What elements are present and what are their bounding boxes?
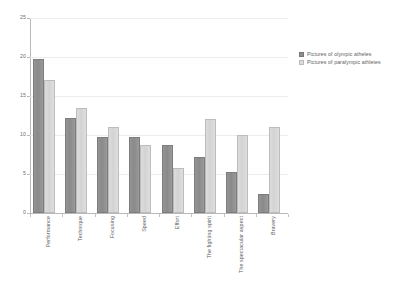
bar[interactable]	[76, 108, 87, 213]
bar[interactable]	[44, 80, 55, 213]
x-axis-category-label: Technique	[78, 216, 83, 241]
x-axis-category-label: Bravery	[271, 216, 276, 235]
legend-item-olympic[interactable]: Pictures of olympic atheles	[299, 52, 414, 57]
chart-legend: Pictures of olympic atheles Pictures of …	[299, 52, 414, 67]
x-axis-tick-mark	[30, 214, 31, 217]
x-axis-tick-mark	[191, 214, 192, 217]
y-axis-tick-label: 10	[4, 132, 26, 137]
x-axis-category-label: The fighting spirit	[207, 216, 212, 258]
y-axis-tick-mark	[27, 18, 30, 19]
x-axis-category-label: Effort	[175, 216, 180, 229]
x-axis-category-label: Focusing	[110, 216, 115, 238]
bar[interactable]	[162, 145, 173, 213]
gridline	[30, 18, 288, 19]
bar[interactable]	[129, 137, 140, 213]
legend-item-paralympic[interactable]: Pictures of paralympic athletes	[299, 60, 414, 65]
x-axis-category-label: Performance	[46, 216, 51, 247]
y-axis-tick-mark	[27, 174, 30, 175]
bar[interactable]	[65, 118, 76, 213]
x-axis-tick-mark	[288, 214, 289, 217]
bar-chart: 0510152025 PerformanceTechniqueFocusingS…	[0, 0, 418, 304]
bar[interactable]	[226, 172, 237, 213]
x-axis-tick-mark	[256, 214, 257, 217]
y-axis-tick-mark	[27, 57, 30, 58]
y-axis-tick-label: 25	[4, 15, 26, 20]
bar[interactable]	[33, 59, 44, 213]
legend-label-paralympic: Pictures of paralympic athletes	[307, 60, 381, 65]
legend-label-olympic: Pictures of olympic atheles	[307, 52, 371, 57]
bar[interactable]	[108, 127, 119, 213]
y-axis-tick-label: 5	[4, 171, 26, 176]
legend-swatch-olympic-icon	[299, 52, 304, 57]
gridline	[30, 57, 288, 58]
bar[interactable]	[173, 168, 184, 213]
bar[interactable]	[269, 127, 280, 213]
plot-area	[30, 18, 288, 213]
legend-swatch-paralympic-icon	[299, 60, 304, 65]
bar[interactable]	[237, 135, 248, 213]
x-axis-tick-mark	[62, 214, 63, 217]
y-axis-tick-mark	[27, 96, 30, 97]
x-axis-category-label: The spectacular aspect	[239, 216, 244, 273]
x-axis-tick-mark	[224, 214, 225, 217]
bar[interactable]	[258, 194, 269, 214]
x-axis-tick-mark	[159, 214, 160, 217]
bar[interactable]	[194, 157, 205, 213]
bar[interactable]	[140, 145, 151, 213]
y-axis-tick-label: 20	[4, 54, 26, 59]
y-axis-tick-label: 15	[4, 93, 26, 98]
bar[interactable]	[205, 119, 216, 213]
bar[interactable]	[97, 137, 108, 213]
x-axis-tick-mark	[127, 214, 128, 217]
x-axis-tick-mark	[95, 214, 96, 217]
x-axis-category-label: Speed	[142, 216, 147, 232]
y-axis-tick-mark	[27, 135, 30, 136]
y-axis-tick-label: 0	[4, 210, 26, 215]
gridline	[30, 96, 288, 97]
